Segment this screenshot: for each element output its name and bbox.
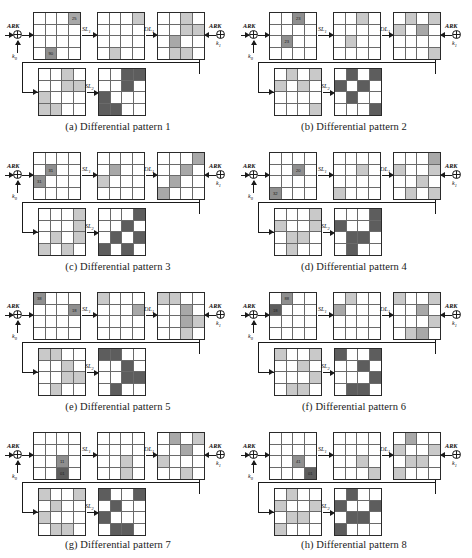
state-matrix-after-sl2 (334, 68, 382, 116)
matrix-cell (293, 316, 305, 328)
matrix-cell (74, 104, 86, 116)
matrix-cell (134, 512, 146, 524)
matrix-cell (346, 13, 358, 25)
matrix-cell (181, 293, 193, 305)
matrix-cell (158, 305, 170, 317)
matrix-cell (347, 512, 359, 524)
matrix-cell (181, 328, 193, 340)
matrix-cell: 38 (34, 293, 46, 305)
cell-value: 11 (57, 456, 68, 467)
matrix-cell (298, 384, 310, 396)
matrix-cell (310, 232, 322, 244)
arrow-ark-out (441, 455, 452, 456)
ark-in-stub (5, 455, 13, 456)
matrix-cell (370, 361, 382, 373)
matrix-cell (98, 456, 110, 468)
wrap-segment-horizontal (22, 202, 199, 203)
ark-in-xor (13, 30, 22, 39)
matrix-cell (394, 433, 406, 445)
panel-g: ARKk01101SL1DL1ARKk1SL2(g) Differential … (0, 420, 236, 558)
matrix-cell (51, 244, 63, 256)
matrix-cell (282, 176, 294, 188)
key-in-arrow (253, 461, 254, 473)
matrix-cell (51, 81, 63, 93)
matrix-cell (34, 13, 46, 25)
arrow-to-input-state (22, 315, 33, 316)
matrix-cell (133, 328, 145, 340)
state-matrix-input-state: 2590 (33, 12, 81, 60)
matrix-cell (181, 305, 193, 317)
matrix-cell (122, 361, 134, 373)
matrix-cell (335, 221, 347, 233)
matrix-cell (170, 445, 182, 457)
key-out-label: k1 (216, 460, 221, 468)
panel-body-c: ARKk03131SL1DL1ARKk1SL2 (0, 140, 236, 258)
matrix-cell (293, 36, 305, 48)
matrix-cell (170, 176, 182, 188)
matrix-cell: 31 (34, 176, 46, 188)
matrix-cell (69, 445, 81, 457)
matrix-cell (170, 36, 182, 48)
matrix-cell (346, 445, 358, 457)
cell-value: 23 (293, 13, 304, 24)
matrix-cell (34, 165, 46, 177)
panel-caption-f: (f) Differential pattern 6 (236, 401, 472, 412)
matrix-cell (394, 328, 406, 340)
arrow-sl1 (318, 455, 333, 456)
matrix-cell (417, 316, 429, 328)
matrix-cell (305, 176, 317, 188)
matrix-cell (170, 13, 182, 25)
matrix-cell (193, 293, 205, 305)
matrix-cell (394, 305, 406, 317)
matrix-cell (429, 188, 441, 200)
matrix-cell (298, 361, 310, 373)
matrix-cell (275, 384, 287, 396)
matrix-cell (34, 456, 46, 468)
matrix-cell (158, 153, 170, 165)
matrix-cell (121, 293, 133, 305)
matrix-cell (310, 244, 322, 256)
matrix-cell (429, 293, 441, 305)
key-out-label: k1 (452, 180, 457, 188)
matrix-cell (293, 188, 305, 200)
matrix-cell (134, 349, 146, 361)
ark-in-label: ARK (243, 302, 255, 309)
matrix-cell (69, 328, 81, 340)
matrix-cell (57, 305, 69, 317)
matrix-cell (46, 456, 58, 468)
state-matrix-after-dl1 (393, 152, 441, 200)
matrix-cell (98, 293, 110, 305)
op-label-sl1: SL1 (82, 445, 91, 454)
matrix-cell (39, 69, 51, 81)
matrix-cell (275, 372, 287, 384)
matrix-cell (369, 25, 381, 37)
matrix-cell (110, 305, 122, 317)
wrap-segment-horizontal (22, 62, 199, 63)
key-in-arrow (253, 321, 254, 333)
matrix-cell (429, 13, 441, 25)
matrix-cell (39, 244, 51, 256)
matrix-cell (170, 25, 182, 37)
matrix-cell (298, 104, 310, 116)
matrix-cell (335, 81, 347, 93)
matrix-cell (193, 165, 205, 177)
matrix-cell (34, 188, 46, 200)
matrix-cell (46, 305, 58, 317)
matrix-cell (357, 468, 369, 480)
matrix-cell (287, 69, 299, 81)
matrix-cell (282, 25, 294, 37)
matrix-cell (62, 81, 74, 93)
panel-body-a: ARKk02590SL1DL1ARKk1SL2 (0, 0, 236, 118)
matrix-cell (282, 13, 294, 25)
matrix-cell (74, 361, 86, 373)
matrix-cell (429, 456, 441, 468)
matrix-cell (298, 92, 310, 104)
matrix-cell (282, 433, 294, 445)
matrix-cell (121, 25, 133, 37)
matrix-cell (429, 165, 441, 177)
matrix-cell (417, 36, 429, 48)
state-matrix-wrapped-state (274, 488, 322, 536)
ark-out-label: ARK (445, 162, 457, 169)
matrix-cell (417, 188, 429, 200)
matrix-cell (110, 176, 122, 188)
